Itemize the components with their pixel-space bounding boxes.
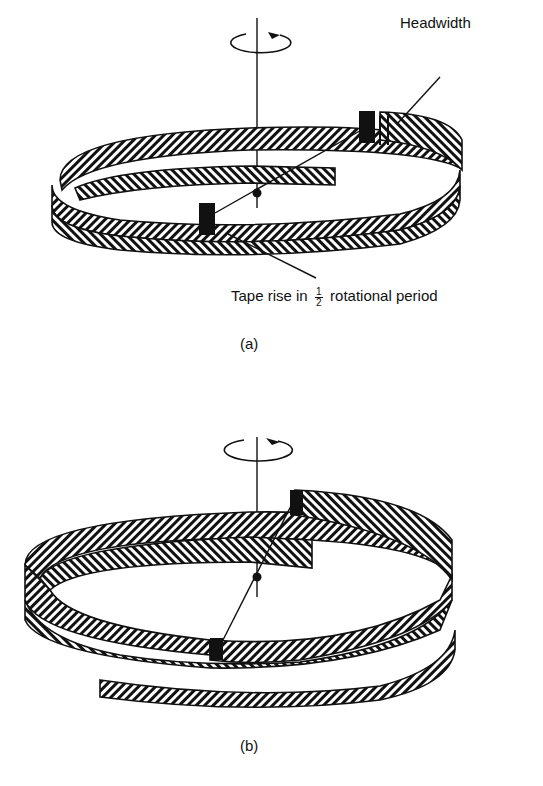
fraction-numerator: 1 <box>316 287 322 297</box>
head-back <box>359 111 375 143</box>
drum-center-b <box>253 573 262 582</box>
caption-b: (b) <box>240 737 258 754</box>
fraction-denominator: 2 <box>316 298 322 308</box>
figure-a <box>52 18 462 278</box>
figure-b <box>25 437 455 707</box>
caption-a: (a) <box>240 335 258 352</box>
head-front <box>199 203 215 235</box>
tape-rise-label: Tape rise in 1 2 rotational period <box>231 287 438 308</box>
headwidth-label: Headwidth <box>400 14 471 31</box>
rotation-arrow-icon <box>231 32 291 53</box>
fraction-half: 1 2 <box>315 287 323 308</box>
head-b-front <box>210 638 223 660</box>
rotation-arrow-icon <box>224 438 292 461</box>
tape-rise-suffix: rotational period <box>330 287 438 304</box>
drum-center-a <box>253 189 262 198</box>
tape-b-front-right <box>210 575 452 663</box>
tape-inner-strip <box>75 166 335 200</box>
tape-rise-prefix: Tape rise in <box>231 287 308 304</box>
helical-scan-diagram <box>0 0 543 786</box>
